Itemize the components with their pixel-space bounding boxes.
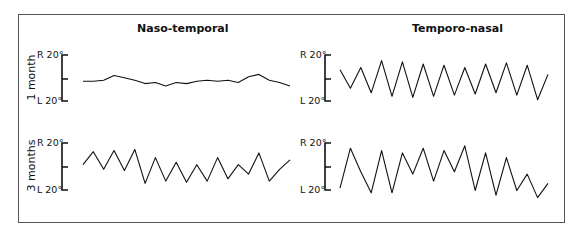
trace-temporo-1month	[340, 61, 548, 100]
trace-naso-3months	[83, 149, 290, 183]
plot-layer	[0, 0, 585, 235]
trace-temporo-3months	[340, 146, 548, 198]
trace-naso-1month	[83, 74, 290, 86]
y-axis-bracket	[62, 55, 68, 101]
y-axis-bracket	[62, 143, 68, 190]
y-axis-bracket	[325, 143, 331, 190]
y-axis-bracket	[325, 55, 331, 101]
